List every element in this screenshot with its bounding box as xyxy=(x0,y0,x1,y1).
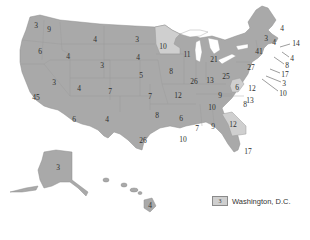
label-ca: 45 xyxy=(32,93,40,102)
label-ia: 8 xyxy=(169,67,173,76)
leader-nj xyxy=(270,69,280,73)
state-ak xyxy=(38,150,88,196)
label-ut: 4 xyxy=(77,84,81,93)
label-ks: 7 xyxy=(148,92,152,101)
label-tx: 26 xyxy=(139,136,147,145)
label-nj: 17 xyxy=(281,70,289,79)
label-md: 10 xyxy=(279,89,287,98)
label-nv: 3 xyxy=(52,78,56,87)
label-mo: 12 xyxy=(174,91,182,100)
label-or: 6 xyxy=(38,47,42,56)
label-ny: 41 xyxy=(255,47,263,56)
label-ak: 3 xyxy=(56,163,60,172)
leader-ct xyxy=(274,57,284,64)
label-nh: 4 xyxy=(272,38,276,47)
label-nd: 3 xyxy=(135,35,139,44)
label-wa: 9 xyxy=(47,25,51,34)
label-ne: 5 xyxy=(139,71,143,80)
label-hi: 4 xyxy=(148,201,152,210)
label-ok: 8 xyxy=(155,111,159,120)
label-nm: 4 xyxy=(105,115,109,124)
label-ga: 12 xyxy=(229,120,237,129)
label-co: 7 xyxy=(108,87,112,96)
legend-swatch: 3 xyxy=(212,196,228,206)
label-ct: 8 xyxy=(285,61,289,70)
label-id: 4 xyxy=(66,52,70,61)
label-me: 4 xyxy=(280,24,284,33)
label-in: 13 xyxy=(206,76,214,85)
label-wi: 11 xyxy=(183,50,190,59)
label-pa: 27 xyxy=(247,63,255,72)
label-va: 12 xyxy=(248,84,256,93)
leader-ri xyxy=(282,52,289,57)
label-mi: 21 xyxy=(210,55,218,64)
label-mn: 10 xyxy=(159,42,167,51)
label-wa-coast: 3 xyxy=(34,21,38,30)
label-nc: 13 xyxy=(246,96,254,105)
label-fl: 17 xyxy=(244,147,252,156)
label-mt: 4 xyxy=(93,35,97,44)
alaska-islands xyxy=(10,186,38,192)
label-la: 10 xyxy=(179,135,187,144)
legend-swatch-value: 3 xyxy=(219,198,222,204)
label-wy: 3 xyxy=(100,61,104,70)
label-wv: 6 xyxy=(235,83,239,92)
label-ky: 9 xyxy=(218,91,222,100)
leader-md xyxy=(262,79,278,91)
legend: 3 Washington, D.C. xyxy=(212,196,291,206)
label-vt: 3 xyxy=(264,34,268,43)
label-tn: 10 xyxy=(208,103,216,112)
leader-ma xyxy=(280,44,290,47)
label-al: 9 xyxy=(211,122,215,131)
label-il: 26 xyxy=(190,77,198,86)
label-az: 6 xyxy=(72,115,76,124)
leader-de xyxy=(266,76,281,82)
label-oh: 25 xyxy=(222,72,230,81)
label-ma: 14 xyxy=(292,39,300,48)
label-sd: 4 xyxy=(136,53,140,62)
label-ri: 4 xyxy=(290,54,294,63)
label-ms: 7 xyxy=(195,124,199,133)
label-ar: 6 xyxy=(179,114,183,123)
legend-label: Washington, D.C. xyxy=(232,197,291,206)
label-de: 3 xyxy=(282,79,286,88)
